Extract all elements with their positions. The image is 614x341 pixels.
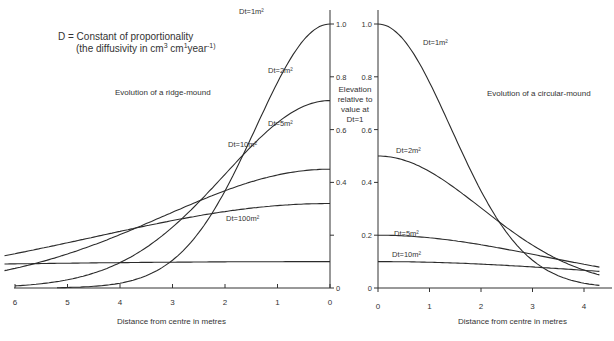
ridge-y-tick-label: 0.4	[336, 178, 346, 187]
ridge-x-axis-label: Distance from centre in metres	[117, 318, 226, 327]
circular-series-label: Dt=1m²	[423, 38, 448, 47]
circular-x-tick-label: 2	[479, 302, 484, 311]
circular-y-tick-label: 0.4	[362, 178, 372, 187]
circular-chart-title: Evolution of a circular-mound	[487, 90, 591, 99]
circular-x-axis-label: Distance from centre in metres	[458, 318, 567, 327]
ridge-x-tick-label: 3	[170, 298, 175, 307]
circular-series-label: Dt=2m²	[396, 146, 421, 155]
ridge-y-tick-label: 0.6	[336, 126, 346, 135]
ridge-chart-title: Evolution of a ridge-mound	[115, 89, 211, 98]
circular-x-tick-label: 3	[530, 302, 535, 311]
circular-x-tick-label: 4	[582, 302, 587, 311]
circular-x-tick-label: 1	[427, 302, 432, 311]
ridge-x-tick-label: 2	[223, 298, 228, 307]
ridge-series-label: Dt=10m²	[228, 140, 257, 149]
ridge-series-label: Dt=1m²	[239, 7, 264, 16]
ridge-x-tick-label: 0	[328, 298, 333, 307]
ridge-series-label: Dt=100m²	[226, 214, 260, 223]
definition-line-1: D = Constant of proportionality	[58, 31, 216, 42]
ridge-series-label: Dt=2m²	[268, 66, 293, 75]
ridge-y-tick-label: 1.0	[336, 20, 346, 29]
circular-series-label: Dt=10m²	[392, 250, 421, 259]
ridge-curve-Dt1m	[57, 24, 330, 288]
ridge-x-tick-label: 1	[275, 298, 280, 307]
ridge-curve-Dt2m	[15, 101, 330, 286]
ridge-x-tick-label: 5	[65, 298, 70, 307]
definition-line-2: (the diffusivity in cm3 cm1year-1)	[58, 42, 216, 54]
circular-y-tick-label: 0	[368, 284, 372, 293]
ridge-x-tick-label: 6	[13, 298, 18, 307]
ridge-series-label: Dt=5m²	[268, 119, 293, 128]
circular-y-tick-label: 0.8	[362, 73, 372, 82]
definition-text: D = Constant of proportionality (the dif…	[58, 31, 216, 54]
circular-y-tick-label: 1.0	[362, 20, 372, 29]
ridge-curve-Dt10m	[5, 204, 331, 256]
ridge-y-tick-label: 0	[336, 284, 340, 293]
y-axis-label: Elevation relative to value at Dt=1	[333, 85, 377, 125]
ridge-curve-Dt5m	[5, 169, 331, 270]
circular-x-tick-label: 0	[376, 302, 381, 311]
circular-series-label: Dt=5m²	[394, 229, 419, 238]
circular-y-tick-label: 0.6	[362, 126, 372, 135]
ridge-y-tick-label: 0.8	[336, 73, 346, 82]
ridge-x-tick-label: 4	[118, 298, 123, 307]
circular-y-tick-label: 0.2	[362, 231, 372, 240]
